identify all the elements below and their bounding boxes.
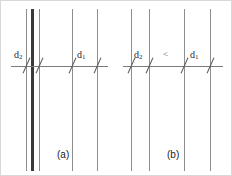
lattice-plane-line bbox=[184, 9, 185, 171]
panel-a: d2 d1 (a) bbox=[1, 1, 117, 176]
label-d2-subscript: 2 bbox=[19, 53, 23, 61]
figure-container: d2 d1 (a) d2 < d1 (b) bbox=[0, 0, 232, 176]
less-than-symbol: < bbox=[163, 50, 168, 59]
lattice-plane-line-thick bbox=[31, 9, 34, 171]
caption-panel-b: (b) bbox=[167, 150, 179, 160]
lattice-plane-line bbox=[210, 9, 211, 171]
label-d1-panel-b: d1 bbox=[190, 50, 199, 61]
caption-panel-a: (a) bbox=[57, 150, 69, 160]
label-d2-panel-a: d2 bbox=[14, 50, 23, 61]
lattice-plane-line bbox=[39, 9, 40, 171]
label-d1-subscript: 1 bbox=[82, 53, 86, 61]
label-d1-subscript: 1 bbox=[195, 53, 199, 61]
lattice-plane-line bbox=[26, 9, 27, 171]
lattice-plane-line bbox=[72, 9, 73, 171]
label-d2-subscript: 2 bbox=[139, 53, 143, 61]
lattice-plane-line bbox=[131, 9, 132, 171]
label-d2-panel-b: d2 bbox=[134, 50, 143, 61]
lattice-plane-line bbox=[97, 9, 98, 171]
label-d1-panel-a: d1 bbox=[77, 50, 86, 61]
lattice-plane-line bbox=[149, 9, 150, 171]
